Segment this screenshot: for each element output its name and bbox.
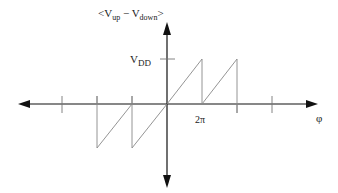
x-axis bbox=[18, 100, 318, 108]
x-axis-left-arrow-icon bbox=[18, 100, 30, 108]
x-tick-label-2pi: 2π bbox=[195, 114, 205, 125]
vdd-label: VDD bbox=[130, 53, 151, 68]
y-axis-up-arrow-icon bbox=[163, 22, 171, 35]
x-axis-right-arrow-icon bbox=[306, 100, 318, 108]
y-axis-down-arrow-icon bbox=[163, 175, 171, 188]
y-axis-label: <Vup − Vdown> bbox=[98, 7, 164, 22]
phase-detector-diagram: <Vup − Vdown> VDD 2π φ bbox=[0, 0, 338, 193]
x-axis-label-phi: φ bbox=[316, 112, 322, 124]
y-axis bbox=[163, 22, 171, 188]
